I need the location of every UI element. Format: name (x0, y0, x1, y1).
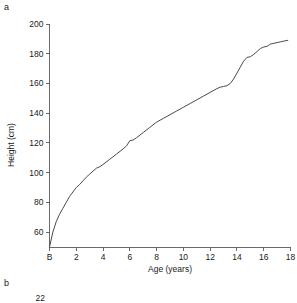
y-axis: 6080100120140160180200 Height (cm) (6, 19, 50, 247)
x-tick-label: B (47, 252, 53, 262)
x-axis: B24681012141618 Age (years) (47, 247, 296, 274)
y-tick-label: 180 (29, 49, 43, 59)
y-tick-marks (46, 24, 50, 232)
x-tick-label: 8 (154, 252, 159, 262)
x-tick-label: 14 (232, 252, 242, 262)
y-tick-label: 120 (29, 138, 43, 148)
y-tick-labels: 6080100120140160180200 (29, 19, 43, 237)
growth-distance-chart: 6080100120140160180200 Height (cm) B2468… (0, 0, 297, 275)
y-tick-label: 60 (34, 227, 44, 237)
x-tick-labels: B24681012141618 (47, 252, 296, 262)
chart-a-svg: 6080100120140160180200 Height (cm) B2468… (0, 0, 297, 275)
x-tick-label: 4 (101, 252, 106, 262)
y-tick-label: 100 (29, 168, 43, 178)
panel-b-y-tick-label: 22 (36, 293, 46, 303)
x-tick-label: 16 (259, 252, 269, 262)
y-tick-label: 80 (34, 197, 44, 207)
y-tick-label: 160 (29, 78, 43, 88)
x-tick-label: 2 (74, 252, 79, 262)
y-axis-title: Height (cm) (6, 123, 16, 167)
y-tick-label: 140 (29, 108, 43, 118)
height-curve (50, 40, 288, 247)
x-tick-label: 6 (127, 252, 132, 262)
chart-b-svg: 22 (0, 275, 297, 303)
panel-b-partial-chart: 22 (0, 275, 297, 303)
x-tick-label: 18 (286, 252, 296, 262)
x-tick-label: 12 (205, 252, 215, 262)
x-tick-label: 10 (179, 252, 189, 262)
y-tick-label: 200 (29, 19, 43, 29)
x-axis-title: Age (years) (148, 264, 192, 274)
